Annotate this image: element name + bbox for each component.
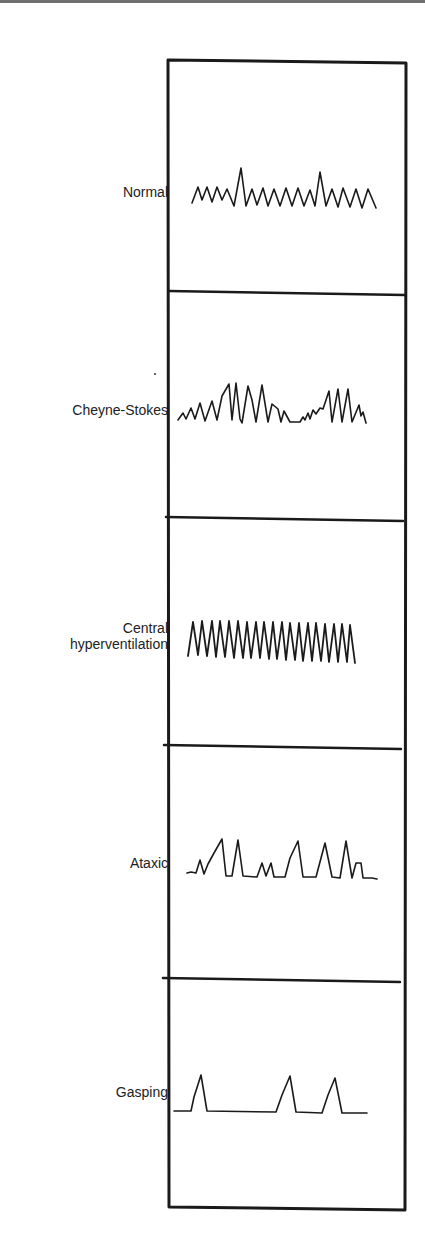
divider-3 [164,745,401,749]
wave-normal [192,168,376,208]
divider-1 [169,291,405,295]
wave-cheyne-stokes [178,383,366,423]
divider-2 [166,517,403,521]
wave-ataxic [187,839,377,879]
divider-4 [163,978,400,982]
wave-gasping [174,1075,367,1113]
panels-svg [0,0,425,1246]
respiratory-patterns-figure: Normal Cheyne-Stokes Central hyperventil… [0,0,425,1246]
wave-central-hyperventilation [188,621,355,663]
